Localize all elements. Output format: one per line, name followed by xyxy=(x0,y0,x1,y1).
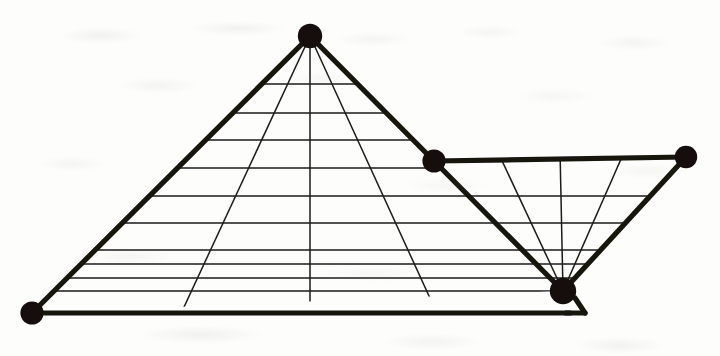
edge-inner-down-slope xyxy=(434,161,563,291)
thick-outline-edges xyxy=(32,36,686,313)
edge-top-right xyxy=(434,157,686,161)
edge-right-slope xyxy=(310,36,434,161)
fan-right-line-3 xyxy=(563,150,625,291)
right-fan-lines xyxy=(497,150,625,291)
edge-left-slope xyxy=(32,36,310,313)
fan-right-line-1 xyxy=(497,150,563,291)
edge-far-right-down xyxy=(563,157,686,291)
node-bottom-right xyxy=(550,278,576,304)
node-bottom-left xyxy=(20,301,43,324)
node-apex xyxy=(298,24,322,48)
mesh-diagram-svg: Two-panel triangular mesh with fan discr… xyxy=(0,0,720,356)
node-far-right xyxy=(675,146,697,168)
right-horizontal-chords xyxy=(400,196,720,278)
mesh-nodes xyxy=(20,24,697,325)
fan-right-line-2 xyxy=(560,150,563,291)
node-mid-junction xyxy=(422,149,445,172)
figure-root: Two-panel triangular mesh with fan discr… xyxy=(0,0,720,356)
left-horizontal-chords xyxy=(0,84,720,291)
